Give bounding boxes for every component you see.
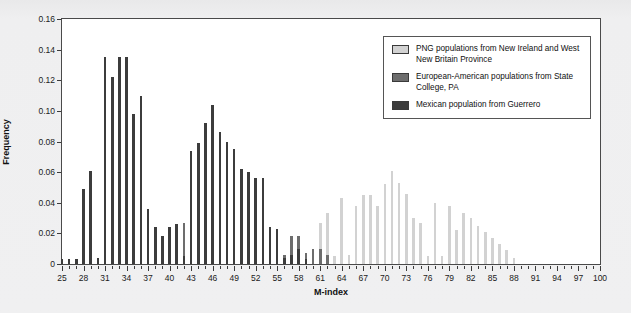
x-axis-tick-label: 100 [593, 273, 607, 283]
legend-item-label: PNG populations from New Ireland and Wes… [416, 44, 582, 65]
x-axis-tick-label: 85 [488, 273, 497, 283]
y-axis-tick [57, 80, 61, 81]
x-axis-tick [349, 266, 350, 269]
x-axis-tick [363, 266, 364, 271]
x-axis-tick [249, 266, 250, 269]
y-axis-tick [57, 19, 61, 20]
histogram-bar [348, 255, 351, 264]
x-axis-tick [457, 266, 458, 269]
histogram-bar [405, 194, 408, 264]
x-axis-tick [392, 266, 393, 269]
histogram-bar [297, 249, 300, 264]
x-axis-tick [141, 266, 142, 269]
histogram-bar [498, 244, 501, 264]
x-axis-tick [184, 266, 185, 269]
x-axis-tick-label: 52 [251, 273, 260, 283]
x-axis-tick-label: 55 [272, 273, 281, 283]
histogram-bar [168, 227, 171, 264]
histogram-bar [412, 218, 415, 264]
y-axis-tick [57, 264, 61, 265]
figure-canvas: Frequency M-index PNG populations from N… [0, 0, 631, 313]
legend-item: PNG populations from New Ireland and Wes… [392, 44, 582, 65]
x-axis-tick [220, 266, 221, 269]
histogram-bar [290, 255, 293, 264]
x-axis-tick [435, 266, 436, 269]
histogram-bar [448, 206, 451, 264]
x-axis-tick [76, 266, 77, 269]
histogram-bar [513, 258, 516, 264]
histogram-bar [183, 256, 186, 264]
x-axis-tick-label: 49 [229, 273, 238, 283]
x-axis-tick [306, 266, 307, 269]
histogram-bar [240, 169, 243, 264]
histogram-bar [441, 256, 444, 264]
histogram-bar [147, 209, 150, 264]
x-axis-tick [198, 266, 199, 269]
x-axis-tick [327, 266, 328, 269]
histogram-bar [505, 250, 508, 264]
histogram-bar [333, 256, 336, 264]
x-axis-tick [586, 266, 587, 269]
x-axis-tick [313, 266, 314, 269]
y-axis-tick-label: 0.04 [38, 198, 55, 208]
histogram-bar [75, 259, 78, 264]
x-axis-tick [478, 266, 479, 269]
x-axis-tick [69, 266, 70, 269]
x-axis-tick-label: 88 [509, 273, 518, 283]
x-axis-tick [600, 266, 601, 271]
x-axis-tick [406, 266, 407, 271]
x-axis-tick [514, 266, 515, 271]
x-axis-tick [543, 266, 544, 269]
x-axis-tick [421, 266, 422, 269]
x-axis-tick-label: 43 [186, 273, 195, 283]
histogram-bar [434, 203, 437, 264]
x-axis-tick [500, 266, 501, 269]
x-axis-tick [234, 266, 235, 271]
x-axis-tick [227, 266, 228, 269]
x-axis-tick [98, 266, 99, 269]
x-axis-tick [428, 266, 429, 271]
histogram-bar [104, 57, 107, 264]
histogram-bar [340, 198, 343, 264]
histogram-bar [89, 171, 92, 264]
x-axis-tick [162, 266, 163, 269]
histogram-bar [233, 149, 236, 264]
histogram-bar [362, 195, 365, 264]
histogram-bar [398, 183, 401, 264]
histogram-bar [477, 226, 480, 264]
x-axis-tick-label: 70 [380, 273, 389, 283]
x-axis-tick [528, 266, 529, 269]
x-axis-tick [356, 266, 357, 269]
histogram-bar [219, 132, 222, 264]
x-axis-tick [557, 266, 558, 271]
x-axis-tick [550, 266, 551, 269]
histogram-bar [68, 259, 71, 264]
y-axis-tick [57, 111, 61, 112]
x-axis-tick [571, 266, 572, 269]
histogram-bar [211, 105, 214, 264]
histogram-bar [161, 236, 164, 264]
x-axis-tick [119, 266, 120, 269]
legend-swatch-icon [392, 101, 409, 110]
x-axis-tick-label: 73 [402, 273, 411, 283]
x-axis-tick-label: 91 [531, 273, 540, 283]
x-axis-tick-label: 37 [143, 273, 152, 283]
x-axis-tick [299, 266, 300, 271]
y-axis-tick-label: 0.10 [38, 106, 55, 116]
histogram-bar [484, 232, 487, 264]
histogram-bar [97, 258, 100, 264]
legend-item: European-American populations from State… [392, 72, 582, 93]
x-axis-tick-label: 34 [122, 273, 131, 283]
x-axis-tick [449, 266, 450, 271]
histogram-bar [82, 189, 85, 264]
x-axis-tick [277, 266, 278, 271]
histogram-bar [455, 230, 458, 264]
histogram-bar [204, 123, 207, 264]
x-axis-tick [148, 266, 149, 271]
histogram-bar [283, 258, 286, 264]
x-axis-tick [320, 266, 321, 271]
legend-item-label: European-American populations from State… [416, 72, 582, 93]
x-axis-tick [284, 266, 285, 269]
x-axis-tick [442, 266, 443, 269]
x-axis-tick [413, 266, 414, 269]
